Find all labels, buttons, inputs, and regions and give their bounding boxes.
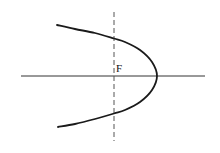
parabola-diagram: F: [0, 0, 220, 153]
focus-label: F: [116, 62, 122, 74]
